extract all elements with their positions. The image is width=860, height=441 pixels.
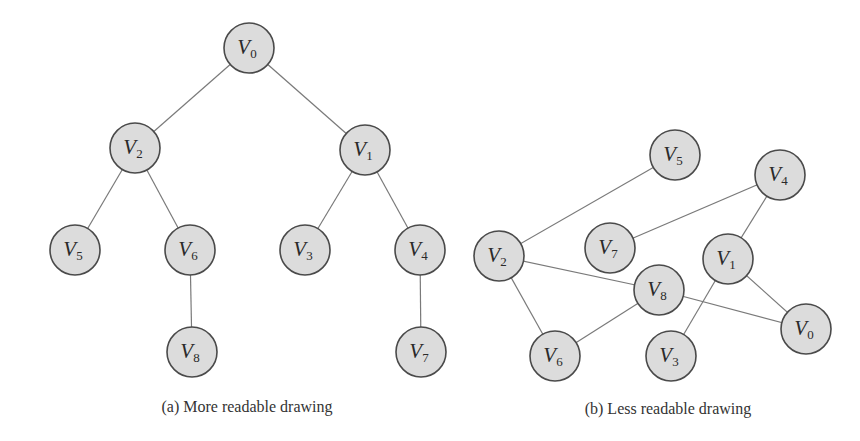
node-v3: V3 [646,331,696,381]
graph-a-more-readable: V0V2V1V5V6V3V4V8V7 [50,23,446,377]
node-v1: V1 [340,125,390,175]
node-v6: V6 [165,225,215,275]
edge-v7-v4 [610,175,780,248]
node-v2: V2 [110,123,160,173]
graph-b-less-readable: V5V4V2V7V1V8V0V6V3 [474,130,831,381]
node-v7: V7 [396,327,446,377]
node-v5: V5 [50,225,100,275]
node-v0: V0 [224,23,274,73]
node-v0: V0 [781,304,831,354]
caption-a: (a) More readable drawing [161,398,332,416]
node-v6: V6 [530,331,580,381]
graph-diagram-canvas: V0V2V1V5V6V3V4V8V7 V5V4V2V7V1V8V0V6V3 [0,0,860,441]
node-v8: V8 [634,265,684,315]
node-v5: V5 [650,130,700,180]
node-v8: V8 [167,327,217,377]
node-v3: V3 [280,225,330,275]
node-v4: V4 [755,150,805,200]
node-v4: V4 [395,225,445,275]
caption-b: (b) Less readable drawing [585,400,752,418]
node-v1: V1 [703,234,753,284]
node-v7: V7 [585,223,635,273]
node-v2: V2 [474,231,524,281]
